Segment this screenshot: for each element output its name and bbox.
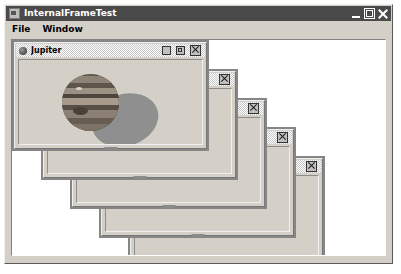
maximize-icon[interactable] bbox=[364, 8, 375, 19]
resize-handle-4[interactable] bbox=[191, 234, 204, 237]
internal-frame-jupiter[interactable]: Jupiter bbox=[12, 40, 209, 151]
planet-band bbox=[62, 110, 119, 118]
internal-frame-controls-jupiter bbox=[162, 45, 201, 56]
resize-handle-2[interactable] bbox=[133, 176, 146, 179]
close-icon[interactable] bbox=[190, 45, 201, 56]
internal-frame-titlebar-jupiter[interactable]: Jupiter bbox=[16, 44, 205, 57]
close-icon[interactable] bbox=[306, 161, 317, 172]
internal-frame-content-jupiter bbox=[18, 59, 203, 145]
close-icon[interactable] bbox=[248, 103, 259, 114]
desktop-pane: Jupiter bbox=[11, 39, 386, 256]
menu-item-window[interactable]: Window bbox=[36, 22, 88, 36]
planet-band bbox=[62, 98, 119, 105]
window-title: InternalFrameTest bbox=[24, 6, 351, 21]
internal-frame-title-jupiter: Jupiter bbox=[31, 44, 162, 57]
maximize-icon[interactable] bbox=[176, 46, 185, 55]
close-icon[interactable] bbox=[219, 74, 230, 85]
window-controls bbox=[351, 8, 388, 19]
great-red-spot bbox=[73, 107, 88, 115]
internal-frame-controls-4 bbox=[277, 132, 288, 143]
jupiter-image bbox=[19, 60, 202, 144]
planet-icon bbox=[19, 47, 27, 55]
close-icon[interactable] bbox=[377, 8, 388, 19]
minimize-icon[interactable] bbox=[351, 8, 362, 19]
resize-handle-3[interactable] bbox=[162, 205, 175, 208]
internal-frame-controls-5 bbox=[306, 161, 317, 172]
planet-highlight bbox=[76, 87, 82, 90]
planet-band bbox=[62, 124, 119, 131]
iconify-icon[interactable] bbox=[162, 46, 171, 55]
window-titlebar[interactable]: InternalFrameTest bbox=[6, 6, 391, 21]
menubar: File Window bbox=[6, 21, 391, 37]
internal-frame-controls-2 bbox=[219, 74, 230, 85]
planet-band bbox=[62, 76, 119, 83]
application-icon bbox=[9, 8, 20, 19]
application-window: InternalFrameTest File Window bbox=[4, 4, 393, 264]
internal-frame-controls-3 bbox=[248, 103, 259, 114]
jupiter-planet bbox=[62, 74, 119, 131]
menu-item-file[interactable]: File bbox=[6, 22, 36, 36]
resize-handle-jupiter[interactable] bbox=[104, 147, 117, 150]
close-icon[interactable] bbox=[277, 132, 288, 143]
